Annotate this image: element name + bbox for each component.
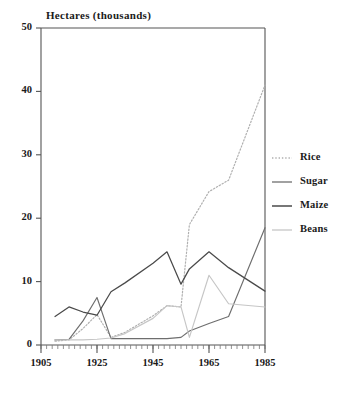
plot-canvas xyxy=(0,0,348,394)
y-tick-label: 10 xyxy=(0,275,32,286)
x-tick-label: 1945 xyxy=(125,357,181,368)
series-line-rice xyxy=(55,85,265,341)
legend-label-sugar: Sugar xyxy=(300,175,328,186)
chart-axis-title: Hectares (thousands) xyxy=(46,9,151,21)
y-tick-label: 30 xyxy=(0,148,32,159)
legend-label-rice: Rice xyxy=(300,151,321,162)
y-tick-label: 20 xyxy=(0,211,32,222)
chart-figure: 0102030405019051925194519651985Hectares … xyxy=(0,0,348,394)
legend-label-beans: Beans xyxy=(300,223,328,234)
x-tick-label: 1925 xyxy=(69,357,125,368)
series-line-beans xyxy=(55,275,265,340)
series-line-sugar xyxy=(55,228,265,340)
series-line-maize xyxy=(55,252,265,317)
x-tick-label: 1985 xyxy=(237,357,293,368)
y-tick-label: 40 xyxy=(0,84,32,95)
x-tick-label: 1905 xyxy=(13,357,69,368)
x-tick-label: 1965 xyxy=(181,357,237,368)
legend-label-maize: Maize xyxy=(300,199,328,210)
y-tick-label: 50 xyxy=(0,21,32,32)
y-tick-label: 0 xyxy=(0,338,32,349)
